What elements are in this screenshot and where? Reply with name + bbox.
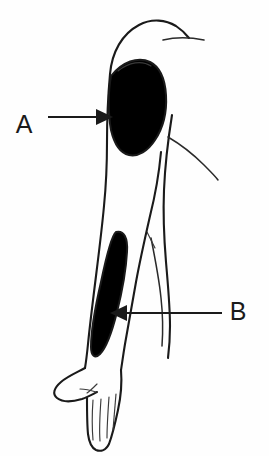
forearm-shaded-region: [91, 232, 127, 357]
anatomical-diagram: A B: [0, 0, 269, 456]
label-a-text: A: [16, 110, 33, 138]
finger-line-3: [107, 397, 109, 438]
thumb-crease-line: [80, 389, 96, 392]
arm-diagram-svg: A B: [0, 0, 269, 456]
torso-contour: [164, 115, 172, 358]
waist-tick: [147, 232, 155, 248]
chest-contour: [168, 137, 218, 180]
clavicle-line: [163, 38, 204, 40]
finger-line-1: [92, 400, 93, 440]
label-b-text: B: [230, 297, 247, 325]
waist-contour: [151, 238, 163, 346]
hand-contour: [54, 368, 97, 401]
finger-line-2: [100, 399, 101, 441]
injection-site-marker: [124, 88, 145, 119]
